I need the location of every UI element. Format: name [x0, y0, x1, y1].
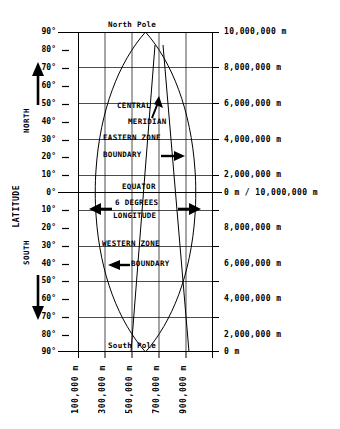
- central-meridian-line-b: [163, 45, 189, 352]
- central-meridian-label-line2: MERIDIAN: [128, 117, 167, 126]
- northing-label-6000000-north: 6,000,000 m: [224, 100, 281, 108]
- axis-left-title: LATITUDE: [12, 185, 21, 228]
- easting-label-100000: 100,000 m: [71, 365, 80, 414]
- eastern-zone-label-line2: BOUNDARY: [103, 150, 142, 159]
- lat-label-50s: 50°: [30, 277, 56, 285]
- lat-label-80n: 80°: [30, 46, 56, 54]
- lat-label-20s: 20°: [30, 224, 56, 232]
- lat-label-40n: 40°: [30, 118, 56, 126]
- lat-label-70s: 70°: [30, 313, 56, 321]
- six-degrees-label-line1: 6 DEGREES: [115, 198, 158, 207]
- northing-label-6000000-south: 6,000,000 m: [224, 260, 281, 268]
- six-degrees-right-arrow-icon: [178, 203, 201, 215]
- lat-label-60n: 60°: [30, 82, 56, 90]
- lat-label-10n: 10°: [30, 171, 56, 179]
- northing-label-equator: 0 m / 10,000,000 m: [224, 189, 318, 197]
- lat-label-10s: 10°: [30, 206, 56, 214]
- lat-label-70n: 70°: [30, 64, 56, 72]
- northing-label-0-south: 0 m: [224, 348, 240, 356]
- lat-label-30n: 30°: [30, 136, 56, 144]
- eastern-zone-label-line1: EASTERN ZONE: [103, 133, 161, 142]
- western-zone-label-line2: BOUNDARY: [131, 259, 170, 268]
- northing-label-2000000-south: 2,000,000 m: [224, 331, 281, 339]
- easting-label-700000: 700,000 m: [152, 365, 161, 414]
- lat-label-50n: 50°: [30, 100, 56, 108]
- utm-zone-diagram: LATITUDE NORTH SOUTH 90° 80° 70° 60° 50°…: [0, 0, 340, 429]
- lat-label-30s: 30°: [30, 242, 56, 250]
- lat-label-90s: 90°: [30, 348, 56, 356]
- northing-label-4000000-south: 4,000,000 m: [224, 295, 281, 303]
- lat-label-20n: 20°: [30, 153, 56, 161]
- northing-label-4000000-north: 4,000,000 m: [224, 136, 281, 144]
- south-pole-label: South Pole: [108, 341, 156, 350]
- lat-label-60s: 60°: [30, 295, 56, 303]
- northing-label-8000000-south: 8,000,000 m: [224, 224, 281, 232]
- six-degrees-label-line2: LONGITUDE: [113, 211, 156, 220]
- northing-label-10000000-north: 10,000,000 m: [224, 28, 287, 36]
- easting-label-900000: 900,000 m: [179, 365, 188, 414]
- lat-label-40s: 40°: [30, 260, 56, 268]
- western-zone-label-line1: WESTERN ZONE: [102, 239, 160, 248]
- easting-ticks: [79, 352, 213, 358]
- lat-label-90n: 90°: [30, 28, 56, 36]
- easting-label-500000: 500,000 m: [125, 365, 134, 414]
- central-meridian-arrow-icon: [152, 96, 163, 118]
- western-zone-arrow-icon: [108, 260, 130, 270]
- northing-label-8000000-north: 8,000,000 m: [224, 64, 281, 72]
- north-pole-label: North Pole: [108, 20, 156, 29]
- lat-label-80s: 80°: [30, 331, 56, 339]
- central-meridian-label-line1: CENTRAL: [117, 101, 151, 110]
- northing-label-2000000-north: 2,000,000 m: [224, 171, 281, 179]
- easting-label-300000: 300,000 m: [98, 365, 107, 414]
- equator-label: EQUATOR: [122, 182, 156, 191]
- six-degrees-left-arrow-icon: [89, 203, 112, 215]
- lat-label-0: 0°: [30, 189, 56, 197]
